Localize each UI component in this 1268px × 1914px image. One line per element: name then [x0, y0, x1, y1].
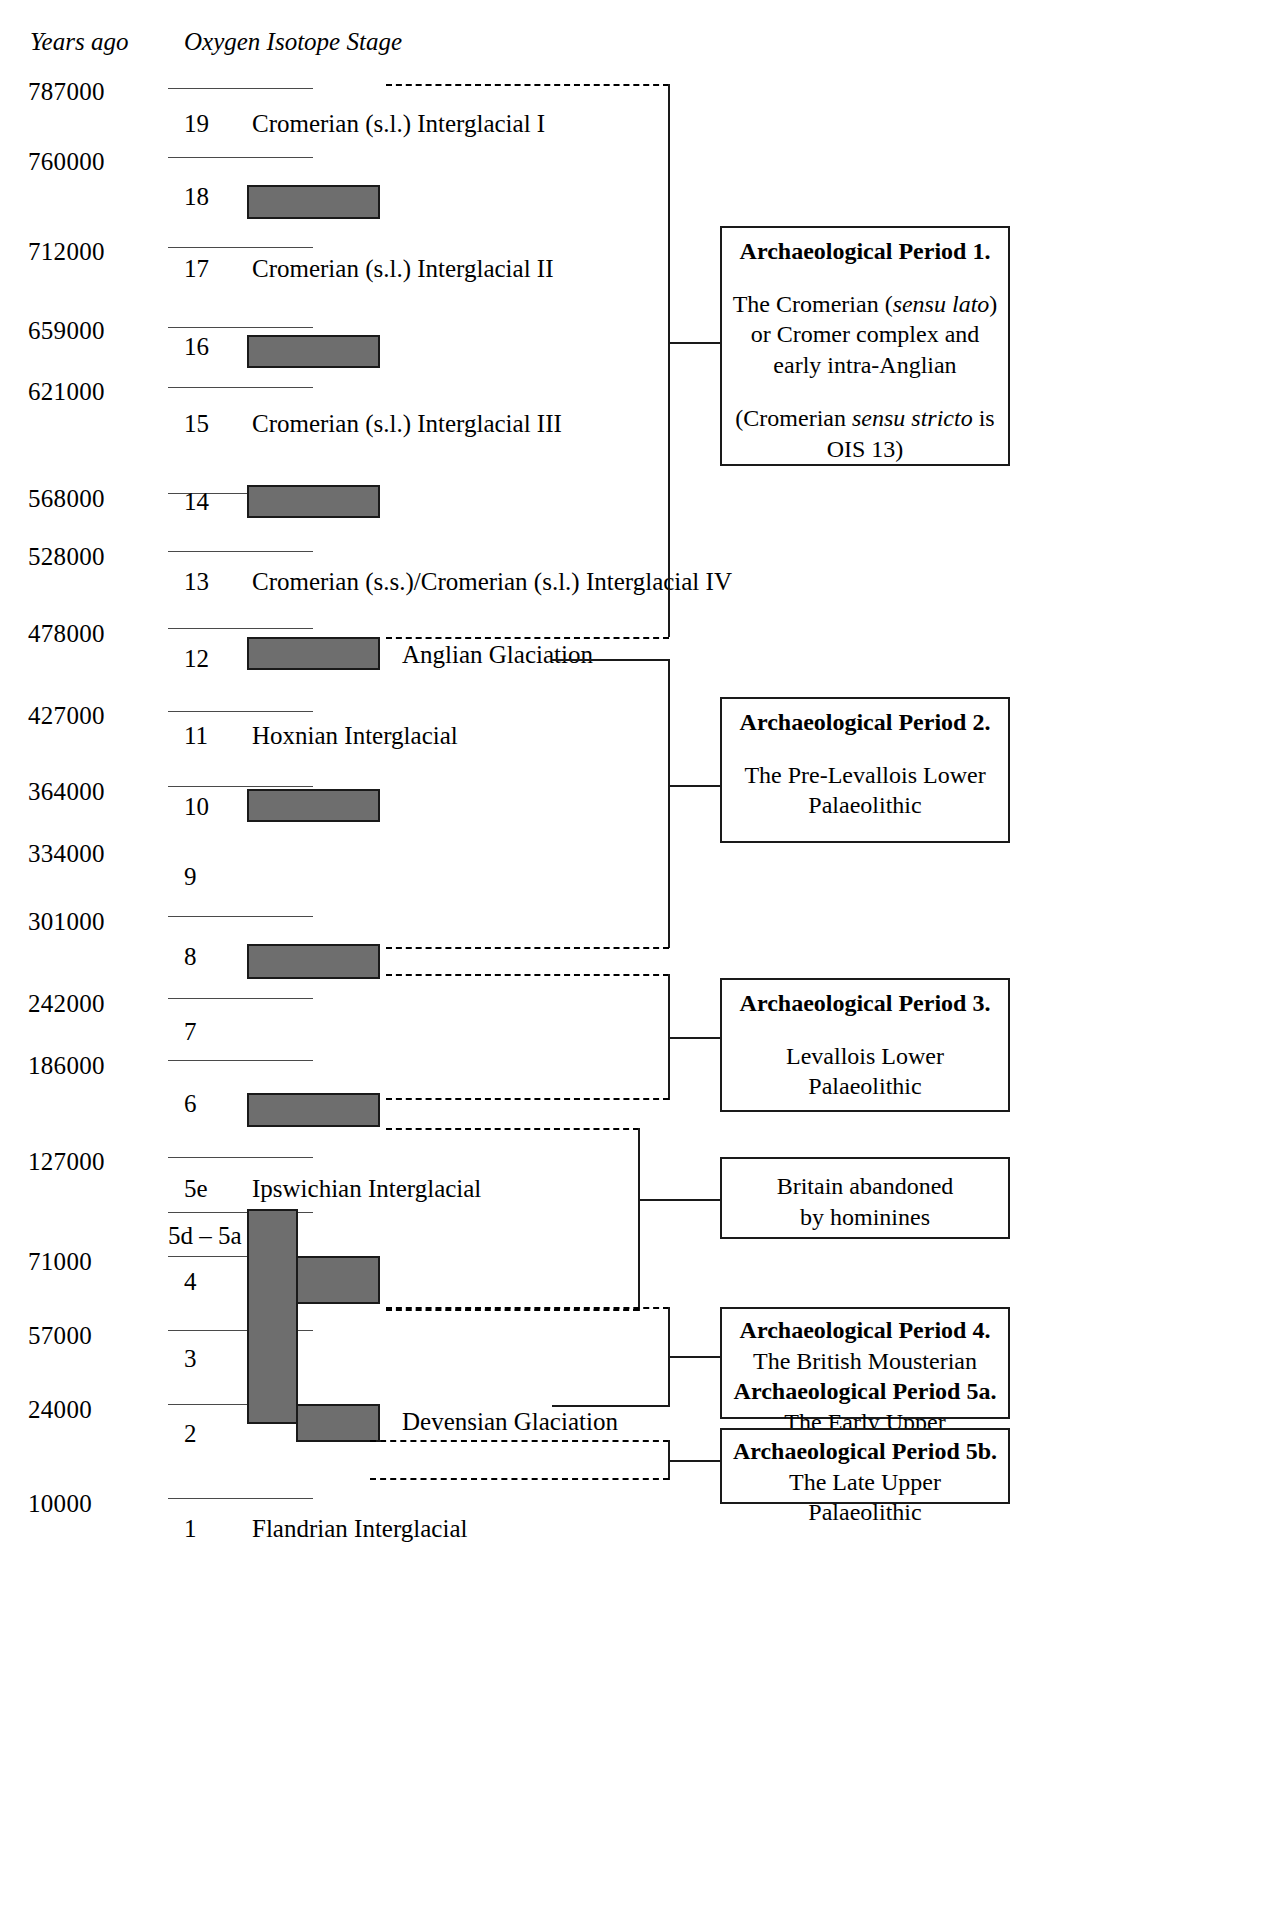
year-label-568000: 568000: [28, 485, 105, 513]
stage-number-13: 13: [184, 568, 209, 596]
column-header-years-ago: Years ago: [30, 28, 128, 56]
bracket1-stem: [668, 342, 720, 344]
glaciation-bar-stage-4: [296, 1256, 380, 1304]
period-2-line1: The Pre-Levallois Lower: [732, 760, 998, 791]
period-3-line2: Palaeolithic: [732, 1071, 998, 1102]
glaciation-bar-stage-2: [296, 1404, 380, 1442]
period-1-title: Archaeological Period 1.: [732, 236, 998, 267]
year-label-364000: 364000: [28, 778, 105, 806]
boundary-rule-10000: [168, 1498, 313, 1499]
bracket3-stem: [668, 1037, 720, 1039]
stage-number-8: 8: [184, 943, 197, 971]
bracket4-bottom-dashed: [386, 1309, 639, 1311]
boundary-rule-528000: [168, 551, 313, 552]
year-label-427000: 427000: [28, 702, 105, 730]
period-5b-title: Archaeological Period 5b.: [732, 1436, 998, 1467]
stage-number-12: 12: [184, 645, 209, 673]
boundary-rule-301000: [168, 916, 313, 917]
bracket2-stem: [668, 785, 720, 787]
bracket4-top-dashed: [386, 1128, 639, 1130]
britain-abandoned-line1: Britain abandoned: [732, 1171, 998, 1202]
year-label-127000: 127000: [28, 1148, 105, 1176]
period-3-title: Archaeological Period 3.: [732, 988, 998, 1019]
period-1-line1: The Cromerian (sensu lato): [732, 289, 998, 320]
period-1-line3: early intra-Anglian: [732, 350, 998, 381]
glaciation-bar-stage-8: [247, 944, 380, 979]
glaciation-bar-stage-6: [247, 1093, 380, 1127]
glaciation-bar-stage-14: [247, 485, 380, 518]
period-3-line1: Levallois Lower: [732, 1041, 998, 1072]
stage-number-14: 14: [184, 488, 209, 516]
bracket4-vertical: [638, 1128, 640, 1311]
period-4-title: Archaeological Period 4.: [732, 1315, 998, 1346]
period-3-spacer: [732, 1019, 998, 1041]
britain-abandoned-line2: by hominines: [732, 1202, 998, 1233]
stage-name-19: Cromerian (s.l.) Interglacial I: [252, 110, 545, 138]
boundary-rule-659000: [168, 327, 313, 328]
stage-name-1: Flandrian Interglacial: [252, 1515, 467, 1543]
boundary-rule-186000: [168, 1060, 313, 1061]
stage-name-5e: Ipswichian Interglacial: [252, 1175, 481, 1203]
year-label-659000: 659000: [28, 317, 105, 345]
bracket3-top-dashed: [386, 974, 669, 976]
year-label-71000: 71000: [28, 1248, 92, 1276]
stage-number-16: 16: [184, 333, 209, 361]
archaeological-period-2-box: Archaeological Period 2. The Pre-Levallo…: [720, 697, 1010, 843]
bracket1-bottom-dashed: [386, 637, 669, 639]
period-2-spacer: [732, 738, 998, 760]
boundary-rule-242000: [168, 998, 313, 999]
stage-name-11: Hoxnian Interglacial: [252, 722, 458, 750]
archaeological-period-4-box: Archaeological Period 4. The British Mou…: [720, 1307, 1010, 1419]
bracket5-stem: [668, 1356, 720, 1358]
stage-number-19: 19: [184, 110, 209, 138]
year-label-24000: 24000: [28, 1396, 92, 1424]
stage-number-7: 7: [184, 1018, 197, 1046]
year-label-621000: 621000: [28, 378, 105, 406]
bracket6-stem: [668, 1460, 720, 1462]
bracket6-top-dashed: [370, 1440, 669, 1442]
year-label-760000: 760000: [28, 148, 105, 176]
stage-number-17: 17: [184, 255, 209, 283]
period-5b-line1: The Late Upper Palaeolithic: [732, 1467, 998, 1528]
stage-number-2: 2: [184, 1420, 197, 1448]
period-5a-title: Archaeological Period 5a.: [732, 1376, 998, 1407]
archaeological-period-1-box: Archaeological Period 1. The Cromerian (…: [720, 226, 1010, 466]
glaciation-bar-stage-18: [247, 185, 380, 219]
bracket2-top-solid: [552, 659, 669, 661]
glaciation-bar-stage-12: [247, 637, 380, 670]
stage-number-10: 10: [184, 793, 209, 821]
period-1-spacer2: [732, 381, 998, 403]
period-1-note-post: is: [973, 405, 995, 431]
stage-number-18: 18: [184, 183, 209, 211]
glaciation-bar-stage-16: [247, 335, 380, 368]
boundary-rule-127000: [168, 1157, 313, 1158]
year-label-334000: 334000: [28, 840, 105, 868]
period-1-line2: or Cromer complex and: [732, 319, 998, 350]
year-label-186000: 186000: [28, 1052, 105, 1080]
period-1-line1-post: ): [989, 291, 997, 317]
year-label-57000: 57000: [28, 1322, 92, 1350]
archaeological-period-3-box: Archaeological Period 3. Levallois Lower…: [720, 978, 1010, 1112]
stage-number-15: 15: [184, 410, 209, 438]
period-1-note-italic: sensu stricto: [852, 405, 973, 431]
archaeological-period-5b-box: Archaeological Period 5b. The Late Upper…: [720, 1428, 1010, 1504]
period-1-spacer: [732, 267, 998, 289]
stage-number-3: 3: [184, 1345, 197, 1373]
year-label-10000: 10000: [28, 1490, 92, 1518]
stage-number-5e: 5e: [184, 1175, 208, 1203]
stage-number-5d-5a: 5d – 5a: [168, 1222, 242, 1250]
year-label-301000: 301000: [28, 908, 105, 936]
stage-name-13: Cromerian (s.s.)/Cromerian (s.l.) Interg…: [252, 568, 732, 596]
stage-number-1: 1: [184, 1515, 197, 1543]
boundary-rule-364000: [168, 786, 313, 787]
boundary-rule-621000: [168, 387, 313, 388]
bracket4-stem: [638, 1199, 720, 1201]
stage-number-6: 6: [184, 1090, 197, 1118]
glaciation-bar-stage-10: [247, 789, 380, 822]
year-label-242000: 242000: [28, 990, 105, 1018]
stage-number-11: 11: [184, 722, 208, 750]
period-1-line1-italic: sensu lato: [893, 291, 990, 317]
bracket5-bottom-solid: [552, 1405, 669, 1407]
bracket2-bottom-dashed: [386, 947, 669, 949]
period-4-line1: The British Mousterian: [732, 1346, 998, 1377]
